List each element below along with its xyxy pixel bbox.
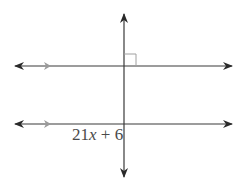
diagram-canvas: 21x + 6	[0, 0, 247, 189]
right-angle-mark-icon	[124, 54, 136, 66]
angle-label: 21x + 6	[72, 125, 123, 144]
